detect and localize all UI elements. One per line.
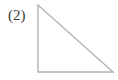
right-triangle-diagram xyxy=(0,0,118,80)
right-triangle-shape xyxy=(38,5,113,72)
figure-container: (2) xyxy=(0,0,118,80)
